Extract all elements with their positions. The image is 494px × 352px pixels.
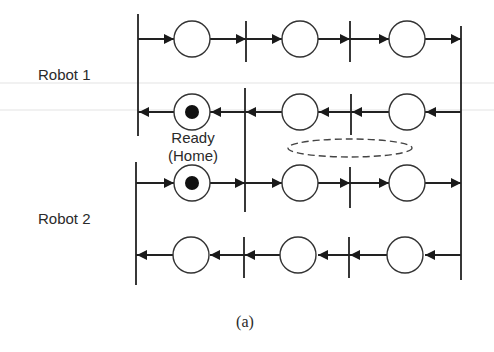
arrow-right-icon: [236, 34, 246, 44]
place-circle: [173, 237, 209, 273]
arrow-left-icon: [318, 250, 328, 260]
arrow-right-icon: [340, 178, 350, 188]
arrow-right-icon: [451, 178, 461, 188]
petri-net-diagram: Robot 1 Robot 2 Ready (Home) (a): [0, 0, 494, 352]
arrow-right-icon: [164, 34, 174, 44]
arrow-left-icon: [245, 250, 255, 260]
arrow-left-icon: [426, 107, 436, 117]
arrow-right-icon: [340, 34, 350, 44]
row-robot2-return: [136, 237, 461, 273]
arrow-left-icon: [139, 107, 149, 117]
place-circle: [389, 94, 425, 130]
row-robot2-forward: [136, 165, 461, 201]
row-robot1-return: [138, 94, 461, 130]
row-robot1-forward: [138, 21, 461, 57]
arrow-left-icon: [319, 107, 329, 117]
arrow-left-icon: [352, 107, 362, 117]
robot1-label: Robot 1: [38, 66, 91, 83]
place-circle: [174, 21, 210, 57]
ready-label: Ready: [171, 129, 215, 146]
arrow-right-icon: [164, 178, 174, 188]
arrow-left-icon: [350, 250, 360, 260]
place-circle: [389, 21, 425, 57]
arrow-left-icon: [246, 107, 256, 117]
arrow-right-icon: [272, 34, 282, 44]
place-circle: [389, 165, 425, 201]
arrow-left-icon: [425, 250, 435, 260]
robot2-label: Robot 2: [38, 210, 91, 227]
arrow-right-icon: [272, 178, 282, 188]
arrow-right-icon: [451, 34, 461, 44]
arrow-left-icon: [137, 250, 147, 260]
token-dot-icon: [185, 105, 199, 119]
arrow-right-icon: [379, 34, 389, 44]
place-circle: [387, 237, 423, 273]
place-circle: [282, 21, 318, 57]
place-circle: [282, 165, 318, 201]
shared-resource-ellipse: [288, 139, 412, 157]
place-circle: [282, 94, 318, 130]
home-label: (Home): [168, 147, 218, 164]
place-circle: [280, 237, 316, 273]
figure-caption: (a): [236, 313, 254, 331]
token-dot-icon: [185, 176, 199, 190]
arrow-right-icon: [235, 178, 245, 188]
arrow-left-icon: [210, 250, 220, 260]
arrow-right-icon: [379, 178, 389, 188]
arrow-left-icon: [211, 107, 221, 117]
